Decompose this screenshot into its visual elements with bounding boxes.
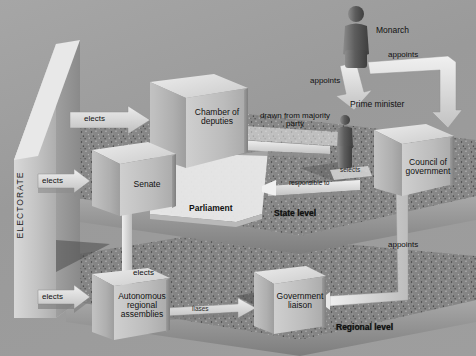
connector-label-responsible-to: responsible to bbox=[289, 179, 329, 186]
arrow-appoints-council bbox=[368, 56, 462, 128]
group-label-parliament: Parliament bbox=[189, 203, 232, 213]
person-monarch bbox=[343, 6, 369, 68]
connector-label-elects-senate: elects bbox=[42, 176, 63, 185]
connector-label-appoints-council: appoints bbox=[388, 50, 418, 59]
electorate-label: ELECTORATE bbox=[15, 157, 25, 253]
node-label-government-liaison: Government liaison bbox=[272, 292, 328, 310]
connector-label-selects: selects bbox=[340, 166, 360, 173]
connector-label-elects-chamber: elects bbox=[84, 114, 105, 123]
node-label-senate: Senate bbox=[118, 180, 176, 189]
connector-label-drawn-from-majority-party: drawn from majority party bbox=[248, 112, 342, 129]
person-label-prime-minister: Prime minister bbox=[350, 100, 404, 109]
diagram-canvas: ELECTORATE Chamber of deputies Senate Co… bbox=[0, 0, 476, 356]
connector-label-appoints-liaison: appoints bbox=[388, 240, 418, 249]
node-label-chamber-of-deputies: Chamber of deputies bbox=[186, 108, 248, 126]
connector-label-appoints-prime-minister: appoints bbox=[310, 76, 340, 85]
connector-label-liaises: liases bbox=[192, 305, 209, 312]
node-label-council-of-government: Council of government bbox=[400, 158, 456, 176]
level-label-state: State level bbox=[274, 208, 316, 218]
connector-label-elects-senate-from-regional: elects bbox=[133, 268, 154, 277]
node-label-autonomous-regional-assemblies: Autonomous regional assemblies bbox=[112, 292, 172, 319]
connector-label-elects-regional-assemblies: elects bbox=[42, 292, 63, 301]
person-label-monarch: Monarch bbox=[376, 26, 409, 35]
level-label-regional: Regional level bbox=[336, 322, 393, 332]
